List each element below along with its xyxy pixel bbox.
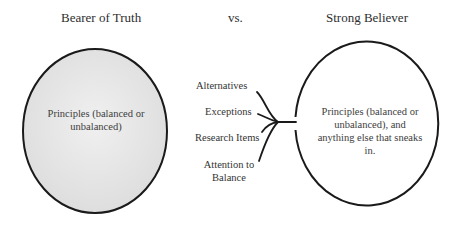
input-label-attention-to-balance: Attention to Balance bbox=[203, 158, 255, 184]
right-circle-text: Principles (balanced or unbalanced), and… bbox=[315, 105, 425, 157]
input-label-research-items: Research Items bbox=[195, 131, 265, 144]
title-strong-believer: Strong Believer bbox=[326, 10, 408, 26]
left-circle-text: Principles (balanced or unbalanced) bbox=[40, 107, 152, 133]
input-label-exceptions: Exceptions bbox=[205, 105, 265, 118]
title-bearer-of-truth: Bearer of Truth bbox=[61, 10, 141, 26]
converging-arrows bbox=[257, 92, 296, 161]
title-vs: vs. bbox=[228, 10, 243, 26]
input-label-alternatives: Alternatives bbox=[196, 79, 266, 92]
